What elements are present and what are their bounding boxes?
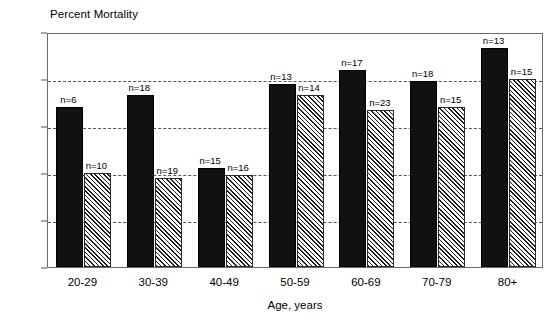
bar-30-39-solid-black-series (127, 95, 154, 267)
y-tick-mark-20 (41, 221, 47, 222)
bar-count-label-20-29-hatched-series: n=10 (86, 160, 107, 171)
y-axis-title: Percent Mortality (50, 8, 138, 20)
bar-40-49-solid-black-series (198, 168, 225, 267)
bar-80plus-solid-black-series (481, 48, 508, 267)
x-axis-title: Age, years (268, 299, 323, 311)
y-tick-mark-40 (41, 174, 47, 175)
bar-count-label-80plus-hatched-series: n=15 (511, 66, 532, 77)
bar-count-label-30-39-hatched-series: n=19 (157, 165, 178, 176)
gridline-80 (48, 81, 542, 82)
bar-20-29-solid-black-series (56, 107, 83, 267)
x-tick-label-70-79: 70-79 (422, 276, 451, 288)
y-tick-mark-80 (41, 80, 47, 81)
bar-count-label-60-69-solid-black-series: n=17 (341, 57, 362, 68)
bar-count-label-50-59-hatched-series: n=14 (298, 82, 319, 93)
bar-40-49-hatched-series (226, 175, 253, 267)
bar-count-label-70-79-hatched-series: n=15 (440, 94, 461, 105)
bar-count-label-60-69-hatched-series: n=23 (369, 97, 390, 108)
bar-count-label-40-49-hatched-series: n=16 (227, 162, 248, 173)
bar-50-59-hatched-series (297, 95, 324, 267)
bar-count-label-40-49-solid-black-series: n=15 (199, 155, 220, 166)
bar-count-label-70-79-solid-black-series: n=18 (412, 68, 433, 79)
bar-30-39-hatched-series (155, 178, 182, 267)
y-tick-mark-100 (41, 33, 47, 34)
y-tick-mark-0 (41, 268, 47, 269)
bar-60-69-hatched-series (367, 110, 394, 267)
bar-80plus-hatched-series (509, 79, 536, 267)
bar-70-79-hatched-series (438, 107, 465, 267)
x-tick-label-60-69: 60-69 (351, 276, 380, 288)
bar-70-79-solid-black-series (410, 81, 437, 267)
x-tick-label-40-49: 40-49 (209, 276, 238, 288)
bar-count-label-30-39-solid-black-series: n=18 (129, 82, 150, 93)
x-tick-label-50-59: 50-59 (280, 276, 309, 288)
x-tick-label-30-39: 30-39 (139, 276, 168, 288)
bar-50-59-solid-black-series (269, 84, 296, 267)
y-tick-mark-60 (41, 127, 47, 128)
bar-count-label-80plus-solid-black-series: n=13 (483, 35, 504, 46)
bar-60-69-solid-black-series (339, 70, 366, 267)
bar-count-label-50-59-solid-black-series: n=13 (270, 71, 291, 82)
x-tick-label-20-29: 20-29 (68, 276, 97, 288)
chart-figure: Percent Mortality 020406080100n=6n=1020-… (0, 0, 558, 325)
x-tick-label-80plus: 80+ (498, 276, 518, 288)
plot-area (48, 34, 542, 267)
bar-20-29-hatched-series (84, 173, 111, 267)
plot-frame (47, 33, 543, 268)
bar-count-label-20-29-solid-black-series: n=6 (60, 94, 76, 105)
